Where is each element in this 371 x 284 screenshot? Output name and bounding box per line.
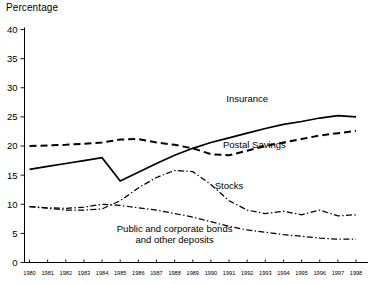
x-axis-tick-label: 1989 (187, 270, 199, 276)
x-axis-tick-label: 1980 (23, 270, 35, 276)
series-annotation-label: and other deposits (136, 234, 214, 245)
x-axis-tick-group: 1980198119821983198419851986198719881989… (23, 260, 362, 276)
x-axis-tick-label: 1990 (205, 270, 217, 276)
series-annotation-label: Public and corporate bonds (117, 223, 233, 234)
y-axis-tick-label: 15 (7, 170, 18, 181)
x-axis-tick-label: 1993 (259, 270, 271, 276)
line-chart-plot: 0510152025303540 19801981198219831984198… (0, 0, 371, 284)
y-axis-tick-label: 25 (7, 111, 18, 122)
x-axis-tick-label: 1987 (150, 270, 162, 276)
x-axis-tick-label: 1981 (41, 270, 53, 276)
y-axis-tick-label: 30 (7, 82, 18, 93)
series-annotation-label: Stocks (215, 180, 244, 191)
annotation-group: InsurancePostal SavingsStocksPublic and … (117, 93, 286, 245)
series-line-postal-savings (30, 131, 357, 155)
series-annotation-label: Postal Savings (223, 139, 286, 150)
x-axis-tick-label: 1995 (295, 270, 307, 276)
chart-container: Percentage 0510152025303540 198019811982… (0, 0, 371, 284)
x-axis-tick-label: 1991 (223, 270, 235, 276)
y-axis-tick-label: 10 (7, 199, 18, 210)
y-axis-tick-label: 5 (12, 228, 17, 239)
x-axis-tick-label: 1997 (332, 270, 344, 276)
x-axis-tick-label: 1983 (78, 270, 90, 276)
x-axis-tick-label: 1988 (168, 270, 180, 276)
y-axis-tick-label: 35 (7, 53, 18, 64)
y-axis-tick-group: 0510152025303540 (7, 24, 25, 268)
x-axis-tick-label: 1992 (241, 270, 253, 276)
x-axis-tick-label: 1984 (96, 270, 108, 276)
x-axis-tick-label: 1996 (313, 270, 325, 276)
y-axis-tick-label: 0 (12, 257, 17, 268)
y-axis-tick-label: 40 (7, 24, 18, 35)
x-axis-tick-label: 1986 (132, 270, 144, 276)
x-axis-tick-label: 1994 (277, 270, 289, 276)
x-axis-tick-label: 1985 (114, 270, 126, 276)
series-annotation-label: Insurance (226, 93, 268, 104)
y-axis-tick-label: 20 (7, 140, 18, 151)
x-axis-tick-label: 1982 (60, 270, 72, 276)
series-line-stocks (30, 170, 357, 215)
series-group (30, 116, 357, 239)
x-axis-tick-label: 1998 (350, 270, 362, 276)
